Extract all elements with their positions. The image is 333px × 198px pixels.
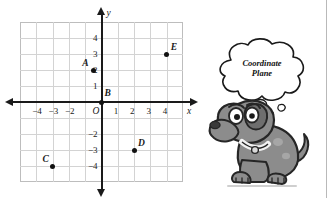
x-tick-label: 2 [130,107,135,116]
y-axis-label: y [107,9,111,19]
x-tick-label: 1 [114,107,119,116]
x-tick-label: 4 [163,107,168,116]
y-tick-label: 1 [84,82,98,91]
thought-line-1: Coordinate [229,58,295,68]
page-divider-rule [326,0,327,198]
y-tick-label: −2 [84,130,98,139]
x-tick-label: −3 [49,107,59,116]
x-axis-label: x [187,107,191,117]
plotted-point-b [99,100,104,105]
point-label-b: B [105,89,111,99]
x-axis-right-arrow [190,98,198,106]
y-tick-label: 4 [84,34,98,43]
dog-icon [210,101,309,186]
plotted-point-d [132,148,137,153]
x-axis-left-arrow [5,98,13,106]
plotted-point-c [50,164,55,169]
coordinate-plane: −4−3−212344321−2−3−4Oxy ABCDE [20,22,183,182]
y-tick-label: −3 [84,146,98,155]
origin-label: O [93,107,100,117]
x-tick-label: 3 [146,107,151,116]
point-label-e: E [171,43,177,53]
figure-root: −4−3−212344321−2−3−4Oxy ABCDE [0,0,333,198]
plotted-point-e [164,52,169,57]
plotted-point-a [91,68,96,73]
x-tick-label: −2 [65,107,75,116]
thought-line-2: Plane [229,68,295,78]
y-axis-down-arrow [97,189,105,197]
point-label-a: A [82,59,88,69]
point-label-c: C [43,155,49,165]
y-axis-up-arrow [97,7,105,15]
thought-bubble-text: Coordinate Plane [229,58,295,79]
mascot-illustration: Coordinate Plane [205,38,320,190]
point-label-d: D [138,139,145,149]
x-tick-label: −4 [32,107,42,116]
y-tick-label: −4 [84,162,98,171]
